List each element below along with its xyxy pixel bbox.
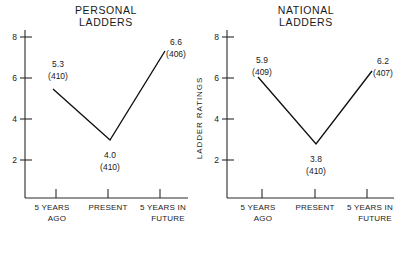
point-label-present-n: (410) <box>306 166 326 176</box>
x-tick-label-future-line2: FUTURE <box>358 214 392 223</box>
y-tick-label-2: 2 <box>12 155 17 165</box>
chart-personal-ladders: PERSONAL LADDERS 8 6 4 2 5 YEARS AGO PRE… <box>12 4 188 223</box>
chart-title-line2: LADDERS <box>279 16 333 28</box>
point-label-past-value: 5.9 <box>256 55 268 65</box>
point-label-future-value: 6.2 <box>377 56 389 66</box>
data-series-line <box>53 51 165 140</box>
point-label-past-n: (410) <box>48 71 68 81</box>
point-label-past-n: (409) <box>252 67 272 77</box>
x-tick-label-past-line2: AGO <box>254 214 272 223</box>
x-tick-label-present: PRESENT <box>88 203 127 212</box>
y-tick-label-6: 6 <box>12 73 17 83</box>
x-tick-label-past-line2: AGO <box>48 214 66 223</box>
y-tick-label-4: 4 <box>214 114 219 124</box>
y-tick-label-6: 6 <box>214 73 219 83</box>
charts-svg: PERSONAL LADDERS 8 6 4 2 5 YEARS AGO PRE… <box>0 0 409 255</box>
point-label-present-n: (410) <box>100 162 120 172</box>
y-tick-label-8: 8 <box>214 32 219 42</box>
point-label-present-value: 4.0 <box>104 150 116 160</box>
chart-title-line1: PERSONAL <box>75 4 137 16</box>
data-series-line <box>258 71 372 144</box>
y-tick-label-2: 2 <box>214 155 219 165</box>
figure-canvas: PERSONAL LADDERS 8 6 4 2 5 YEARS AGO PRE… <box>0 0 409 255</box>
x-tick-label-future-line2: FUTURE <box>151 214 185 223</box>
chart-national-ladders: NATIONAL LADDERS LADDER RATINGS 8 6 4 2 … <box>195 4 394 223</box>
point-label-past-value: 5.3 <box>52 59 64 69</box>
x-tick-label-future-line1: 5 YEARS IN <box>140 203 186 212</box>
y-tick-label-4: 4 <box>12 114 17 124</box>
chart-title-line1: NATIONAL <box>278 4 335 16</box>
x-tick-label-present: PRESENT <box>295 203 334 212</box>
x-tick-label-past-line1: 5 YEARS <box>34 203 69 212</box>
y-axis-label: LADDER RATINGS <box>195 77 204 159</box>
x-tick-label-past-line1: 5 YEARS <box>240 203 275 212</box>
point-label-present-value: 3.8 <box>310 154 322 164</box>
x-tick-label-future-line1: 5 YEARS IN <box>347 203 393 212</box>
point-label-future-n: (407) <box>373 68 393 78</box>
y-tick-label-8: 8 <box>12 32 17 42</box>
point-label-future-n: (406) <box>166 49 186 59</box>
chart-title-line2: LADDERS <box>79 16 133 28</box>
point-label-future-value: 6.6 <box>170 37 182 47</box>
